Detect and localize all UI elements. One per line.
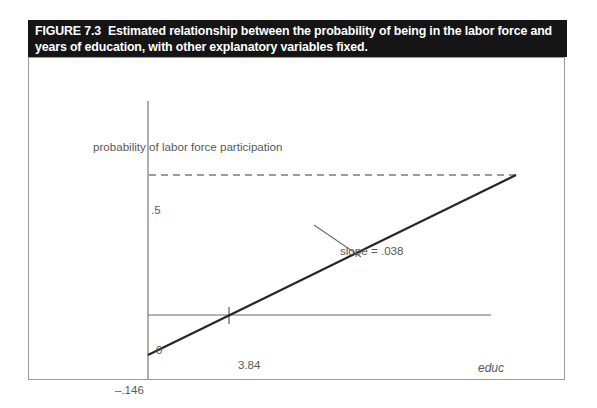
slope-annotation: slope = .038 bbox=[340, 244, 404, 257]
y-axis-label: probability of labor force participation bbox=[93, 140, 175, 155]
figure-number: FIGURE 7.3 bbox=[35, 24, 101, 38]
y-tick-label-intercept: –.146 bbox=[115, 384, 144, 396]
figure-caption: FIGURE 7.3Estimated relationship between… bbox=[35, 24, 557, 55]
figure-caption-text: Estimated relationship between the proba… bbox=[35, 24, 552, 54]
fitted-line bbox=[148, 175, 516, 355]
y-tick-label-half: .5 bbox=[151, 204, 161, 216]
x-axis-label: educ bbox=[478, 361, 504, 375]
figure-header-bar: FIGURE 7.3Estimated relationship between… bbox=[28, 20, 567, 57]
y-tick-label-zero: 0 bbox=[156, 344, 162, 356]
plot-frame: probability of labor force participation… bbox=[28, 57, 565, 380]
plot-canvas bbox=[29, 58, 564, 379]
x-tick-label-3-84: 3.84 bbox=[238, 359, 260, 371]
figure-card: FIGURE 7.3Estimated relationship between… bbox=[28, 20, 567, 382]
